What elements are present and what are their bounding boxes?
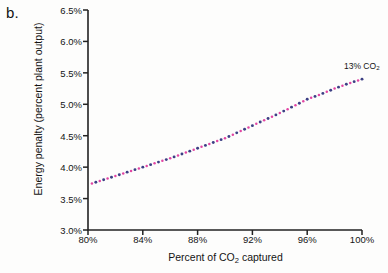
- data-series-13-co2: [91, 78, 364, 185]
- annotation-subscript: 2: [376, 64, 379, 71]
- annotation-13-co2: 13% CO2: [344, 61, 380, 71]
- axis-ticks: [83, 10, 362, 235]
- figure-panel-b: b. Energy penalty (percent plant output)…: [0, 0, 388, 273]
- plot-area: [0, 0, 388, 273]
- annotation-main: 13% CO: [344, 61, 376, 71]
- axis-lines: [88, 10, 362, 230]
